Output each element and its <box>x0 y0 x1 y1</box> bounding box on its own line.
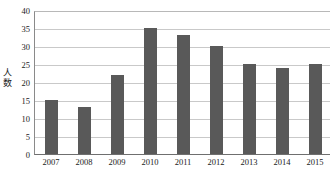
bar-2012 <box>210 46 223 154</box>
bars-layer <box>34 11 330 155</box>
bar-2014 <box>276 68 289 154</box>
y-tick-label: 30 <box>4 43 30 52</box>
bar-2008 <box>78 107 91 154</box>
y-axis-title: 人 数 <box>1 68 14 88</box>
bar-2015 <box>309 64 322 154</box>
bar-2007 <box>45 100 58 154</box>
y-axis-title-char-1: 人 <box>1 68 14 78</box>
y-tick-label: 40 <box>4 7 30 16</box>
y-axis-title-char-2: 数 <box>1 78 14 88</box>
bar-2013 <box>243 64 256 154</box>
x-axis-tick-labels: 2007 2008 2009 2010 2011 2012 2013 2014 … <box>34 157 330 171</box>
y-tick-label: 15 <box>4 97 30 106</box>
y-tick-label: 10 <box>4 115 30 124</box>
bar-2010 <box>144 28 157 154</box>
y-tick-label: 0 <box>4 151 30 160</box>
bar-chart-figure: 人 数 40 35 30 25 20 15 10 5 0 2007 <box>0 0 330 177</box>
bar-2011 <box>177 35 190 154</box>
bar-2009 <box>111 75 124 154</box>
x-tick-label-2015: 2015 <box>295 157 330 168</box>
y-tick-label: 35 <box>4 25 30 34</box>
figure-caption <box>0 172 330 177</box>
y-tick-label: 5 <box>4 133 30 142</box>
